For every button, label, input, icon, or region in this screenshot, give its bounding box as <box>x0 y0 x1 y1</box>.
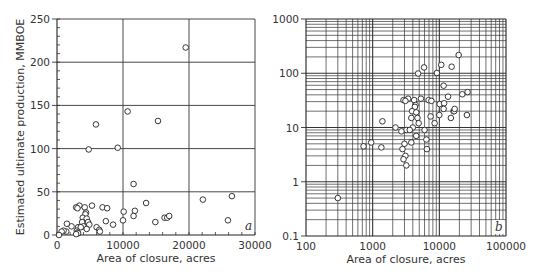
data-point <box>56 232 62 238</box>
data-point <box>449 64 455 70</box>
data-point <box>115 145 121 151</box>
data-point <box>121 209 127 215</box>
data-point <box>104 205 110 211</box>
data-point <box>438 62 444 68</box>
data-point <box>401 156 407 162</box>
data-point <box>379 145 385 151</box>
x-tick-label: 100 <box>296 240 316 252</box>
data-point <box>229 193 235 199</box>
data-point <box>131 181 137 187</box>
data-point <box>448 115 454 121</box>
data-point <box>416 120 422 126</box>
data-point <box>421 65 427 71</box>
data-point <box>409 115 415 121</box>
data-point <box>402 141 408 147</box>
data-point <box>86 147 92 153</box>
data-point <box>429 98 435 104</box>
data-point <box>225 218 231 224</box>
data-point <box>452 106 458 112</box>
y-tick-label: 100 <box>279 67 299 79</box>
chart-canvas: 0501001502002500100002000030000Area of c… <box>0 0 540 277</box>
data-point <box>400 146 406 152</box>
data-point <box>120 218 126 224</box>
data-point <box>166 213 172 219</box>
data-point <box>399 129 405 135</box>
y-tick-label: 1 <box>292 176 299 188</box>
y-tick-label: 0 <box>43 229 50 241</box>
data-point <box>424 146 430 152</box>
data-point <box>110 222 116 228</box>
data-point <box>418 96 424 102</box>
data-point <box>413 133 419 139</box>
y-tick-label: 100 <box>30 143 50 155</box>
data-point <box>465 89 471 95</box>
data-point <box>428 114 434 120</box>
x-tick-label: 10000 <box>106 239 139 251</box>
x-tick-label: 1000 <box>359 240 386 252</box>
data-point <box>84 226 90 232</box>
panel-label-a: a <box>245 219 252 233</box>
data-point <box>103 218 109 224</box>
y-tick-label: 200 <box>30 56 50 68</box>
data-point <box>464 112 470 118</box>
data-point <box>380 119 386 125</box>
y-tick-label: 50 <box>37 186 50 198</box>
chart-b: 0.11101001000100100010000100000Area of c… <box>272 13 526 266</box>
data-point <box>143 200 149 206</box>
data-point <box>97 229 103 235</box>
data-point <box>445 94 451 100</box>
data-point <box>407 127 413 133</box>
data-point <box>415 115 421 121</box>
data-point <box>441 106 447 112</box>
data-point <box>403 98 409 104</box>
data-point <box>413 110 419 116</box>
x-axis-title: Area of closure, acres <box>346 253 465 266</box>
data-point <box>131 213 137 219</box>
data-point <box>153 219 159 225</box>
data-point <box>82 205 88 211</box>
chart-a: 0501001502002500100002000030000Area of c… <box>14 13 272 265</box>
data-point <box>441 83 447 89</box>
panel-label-b: b <box>495 220 503 234</box>
x-tick-label: 100000 <box>486 240 526 252</box>
x-tick-label: 30000 <box>238 239 271 251</box>
data-point <box>393 125 399 131</box>
data-point <box>422 127 428 133</box>
data-point <box>200 197 206 203</box>
data-point <box>459 91 465 97</box>
data-point <box>434 70 440 76</box>
data-point <box>64 221 70 227</box>
data-point <box>125 109 131 115</box>
data-point <box>424 137 430 143</box>
data-point <box>415 71 421 77</box>
y-axis-title: Estimated ultimate production, MMBOE <box>14 19 27 236</box>
data-point <box>73 231 79 237</box>
data-point <box>437 112 443 118</box>
data-point <box>93 122 99 128</box>
data-point <box>441 100 447 106</box>
data-point <box>89 203 95 209</box>
data-point <box>155 118 161 124</box>
y-tick-label: 150 <box>30 99 50 111</box>
y-tick-label: 250 <box>30 13 50 25</box>
data-point <box>335 195 341 201</box>
x-tick-label: 20000 <box>172 239 205 251</box>
data-point <box>456 52 462 58</box>
data-point <box>404 163 410 169</box>
data-point <box>432 120 438 126</box>
y-tick-label: 10 <box>286 122 299 134</box>
data-point <box>361 144 367 150</box>
data-point <box>183 45 189 51</box>
data-point <box>368 140 374 146</box>
data-point <box>75 205 81 211</box>
x-axis-title: Area of closure, acres <box>96 252 215 265</box>
data-point <box>409 140 415 146</box>
y-tick-label: 1000 <box>272 13 299 25</box>
data-point <box>132 208 138 214</box>
x-tick-label: 10000 <box>423 240 456 252</box>
x-tick-label: 0 <box>54 239 61 251</box>
